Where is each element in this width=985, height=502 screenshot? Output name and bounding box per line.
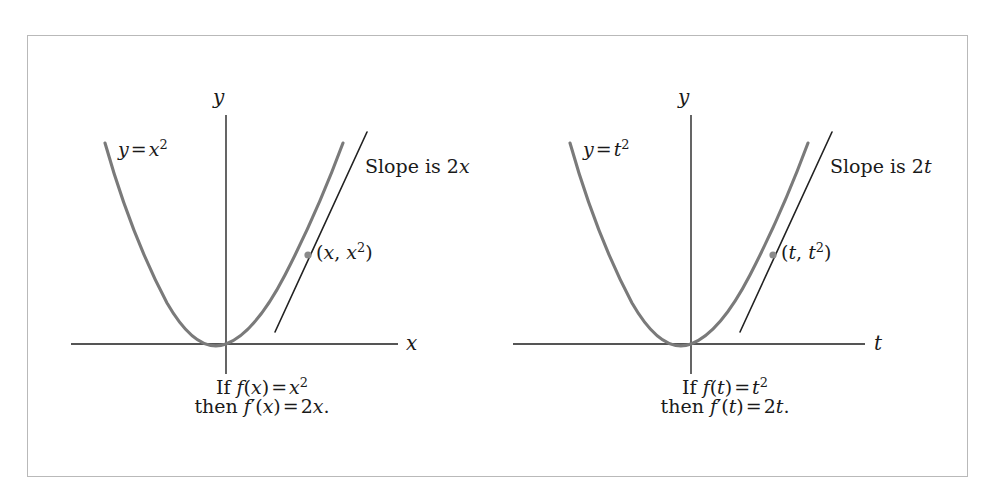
tangent-point-marker (769, 251, 776, 258)
slope-annotation-label: Slope is 2x (365, 157, 470, 176)
tangent-point-marker (304, 251, 311, 258)
panel-left: y x y=x2 Slope is 2x (x, x2) If f(x)=x2 … (27, 35, 497, 477)
x-axis-label: t (874, 333, 882, 353)
panel-caption: If f(x)=x2 then f′(x)=2x. (27, 378, 497, 416)
curve-equation-label: y=x2 (118, 140, 168, 159)
x-axis-label: x (406, 333, 417, 353)
y-axis-label: y (213, 87, 224, 107)
panel-caption: If f(t)=t2 then f′(t)=2t. (490, 378, 960, 416)
tangent-point-label: (x, x2) (316, 243, 373, 262)
caption-line-2: then f′(t)=2t. (490, 397, 960, 416)
tangent-point-label: (t, t2) (781, 243, 831, 262)
panel-right: y t y=t2 Slope is 2t (t, t2) If f(t)=t2 … (498, 35, 968, 477)
slope-annotation-label: Slope is 2t (830, 157, 932, 176)
tangent-line (275, 132, 367, 332)
curve-equation-label: y=t2 (583, 140, 630, 159)
parabola-curve (105, 143, 343, 346)
y-axis-label: y (678, 87, 689, 107)
caption-line-2: then f′(x)=2x. (27, 397, 497, 416)
parabola-curve (570, 143, 808, 346)
figure-root: y x y=x2 Slope is 2x (x, x2) If f(x)=x2 … (0, 0, 985, 502)
tangent-line (740, 132, 832, 332)
